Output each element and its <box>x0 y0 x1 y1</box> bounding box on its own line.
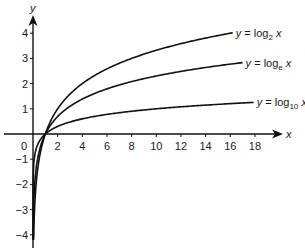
x-tick-label: 4 <box>79 140 85 152</box>
x-tick-label: 18 <box>249 140 261 152</box>
curve-log10 <box>33 102 254 239</box>
y-tick-label: 3 <box>22 52 28 64</box>
curve-label-log2: y = log2 x <box>235 27 282 42</box>
y-tick-label: 1 <box>22 103 28 115</box>
y-tick-label: −1 <box>15 153 28 165</box>
curve-label-loge: y = loge x <box>245 57 292 72</box>
x-tick-label: 10 <box>150 140 162 152</box>
x-tick-label: 12 <box>175 140 187 152</box>
curve-log2 <box>34 33 233 240</box>
y-axis-label: y <box>29 2 37 14</box>
curve-label-log10: y = log10 x <box>256 96 305 111</box>
y-tick-label: 4 <box>22 27 28 39</box>
y-tick-label: −2 <box>15 178 28 190</box>
x-tick-label: 8 <box>129 140 135 152</box>
x-tick-label: 14 <box>199 140 211 152</box>
y-tick-label: −4 <box>15 229 28 241</box>
y-tick-label: 2 <box>22 78 28 90</box>
x-tick-label: 2 <box>55 140 61 152</box>
x-tick-label: 16 <box>224 140 236 152</box>
y-tick-label: −3 <box>15 204 28 216</box>
axes: xy <box>4 2 292 248</box>
origin-label: 0 <box>21 140 27 152</box>
curve-labels: y = log2 xy = loge xy = log10 x <box>235 27 305 112</box>
x-tick-label: 6 <box>104 140 110 152</box>
x-axis-label: x <box>285 128 292 140</box>
log-functions-chart: xy 024681012141618−4−3−2−11234 y = log2 … <box>0 0 305 252</box>
curves <box>33 33 254 240</box>
